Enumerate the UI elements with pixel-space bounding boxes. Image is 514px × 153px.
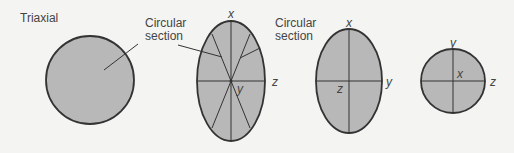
title-label: Triaxial — [20, 11, 58, 25]
axis-label-z-2: z — [336, 82, 343, 96]
callout-1-line1: Circular — [145, 16, 186, 30]
axis-label-z-1: z — [271, 75, 278, 89]
triaxial-sphere — [46, 36, 138, 124]
axis-label-z-3: z — [489, 75, 496, 89]
axis-label-x-3: x — [456, 67, 464, 81]
axis-label-y-1: y — [236, 82, 244, 96]
callout-2-line2: section — [275, 29, 313, 43]
diagram-canvas: Triaxial Circular section x z y Circular… — [0, 0, 514, 153]
ellipse-xz — [178, 21, 265, 141]
circle-yz — [421, 49, 485, 113]
callout-1-line2: section — [145, 29, 183, 43]
axis-label-x-1: x — [227, 7, 235, 21]
axis-label-y-3: y — [449, 36, 457, 50]
ellipse-xy — [316, 29, 382, 133]
axis-label-x-2: x — [345, 16, 353, 30]
callout-2-line1: Circular — [275, 16, 316, 30]
axis-label-y-2: y — [385, 75, 393, 89]
